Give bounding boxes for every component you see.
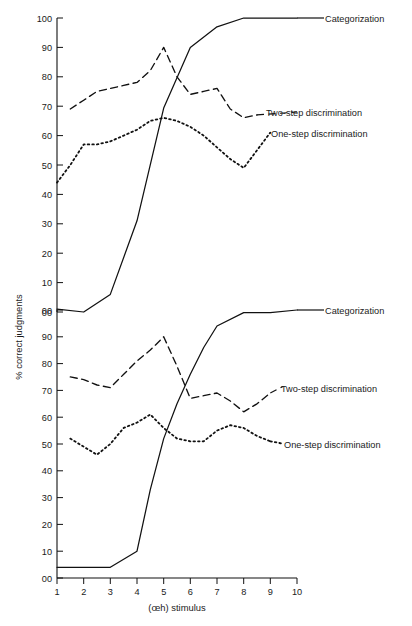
y-tick-label: 30: [42, 493, 52, 503]
y-tick-label: 70: [42, 102, 52, 112]
top-categorization-curve: [57, 18, 297, 312]
x-tick-label: 3: [108, 587, 113, 597]
x-axis-title: (œh) stimulus: [148, 602, 206, 613]
top-panel: 100 90 80 70 60 50 40 30 20 10 00 Catego…: [37, 14, 385, 318]
y-tick-label: 10: [42, 547, 52, 557]
bottom-panel-x-ticks: [57, 578, 297, 584]
y-tick-label: 80: [42, 359, 52, 369]
y-tick-label: 00: [42, 306, 52, 316]
x-tick-label: 2: [81, 587, 86, 597]
bottom-one-step-label: One-step discrimination: [284, 440, 381, 450]
top-panel-y-tick-labels: 100 90 80 70 60 50 40 30 20 10 00: [37, 14, 52, 318]
y-tick-label: 90: [42, 43, 52, 53]
bottom-panel-x-tick-labels: 1 2 3 4 5 6 7 8 9 10: [54, 587, 302, 597]
x-tick-label: 7: [214, 587, 219, 597]
y-tick-label: 40: [42, 466, 52, 476]
top-two-step-label: Two-step discrimination: [266, 108, 362, 118]
x-tick-label: 5: [161, 587, 166, 597]
bottom-panel-y-tick-labels: 00 90 80 70 60 50 40 30 20 10 00: [42, 306, 52, 584]
bottom-one-step-leader: [270, 441, 282, 443]
bottom-two-step-curve: [70, 337, 270, 412]
y-tick-label: 00: [42, 574, 52, 584]
y-tick-label: 20: [42, 520, 52, 530]
bottom-two-step-label: Two-step discrimination: [281, 384, 377, 394]
x-tick-label: 4: [134, 587, 139, 597]
bottom-panel-y-ticks: [57, 310, 63, 578]
y-tick-label: 60: [42, 413, 52, 423]
y-tick-label: 10: [42, 278, 52, 288]
top-panel-y-ticks: [57, 18, 63, 312]
chart-svg: % correct judgments 100 90 80: [0, 0, 412, 626]
x-tick-label: 9: [268, 587, 273, 597]
y-tick-label: 50: [42, 161, 52, 171]
y-tick-label: 20: [42, 249, 52, 259]
chart-figure: % correct judgments 100 90 80: [0, 0, 412, 626]
y-tick-label: 40: [42, 190, 52, 200]
top-one-step-curve: [57, 118, 270, 183]
y-tick-label: 80: [42, 72, 52, 82]
y-tick-label: 70: [42, 386, 52, 396]
y-tick-label: 30: [42, 219, 52, 229]
y-tick-label: 100: [37, 14, 52, 24]
bottom-panel: 00 90 80 70 60 50 40 30 20 10 00: [42, 306, 384, 598]
x-tick-label: 1: [54, 587, 59, 597]
top-categorization-label: Categorization: [325, 14, 384, 24]
y-tick-label: 50: [42, 440, 52, 450]
y-tick-label: 60: [42, 131, 52, 141]
x-tick-label: 10: [292, 587, 302, 597]
y-axis-title-text: % correct judgments: [13, 294, 24, 380]
x-tick-label: 6: [188, 587, 193, 597]
y-axis-title: % correct judgments: [13, 294, 24, 380]
top-one-step-label: One-step discrimination: [271, 129, 368, 139]
x-tick-label: 8: [241, 587, 246, 597]
y-tick-label: 90: [42, 332, 52, 342]
bottom-categorization-label: Categorization: [325, 306, 384, 316]
